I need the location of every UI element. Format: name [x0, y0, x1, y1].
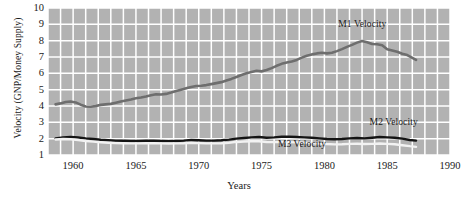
series-label-m1: M1 Velocity: [338, 19, 386, 29]
x-tick-1990: 1990: [420, 160, 476, 172]
chart-figure: Velocity (GNP/Money Supply) 12345678910 …: [0, 0, 476, 203]
y-tick-2: 2: [2, 134, 44, 144]
series-line-1: [56, 137, 417, 141]
y-tick-1: 1: [2, 150, 44, 160]
series-line-0: [56, 41, 417, 107]
x-axis-tick-labels: 1960196519701975198019851990: [0, 160, 476, 174]
x-tick-1985: 1985: [357, 160, 417, 172]
plot-area: M1 VelocityM2 VelocityM3 Velocity: [48, 8, 450, 155]
series-label-m3: M3 Velocity: [278, 139, 326, 149]
x-tick-1975: 1975: [232, 160, 292, 172]
y-tick-3: 3: [2, 117, 44, 127]
x-tick-1980: 1980: [294, 160, 354, 172]
x-axis-title: Years: [0, 180, 476, 191]
y-tick-8: 8: [2, 36, 44, 46]
y-tick-10: 10: [2, 3, 44, 13]
y-tick-9: 9: [2, 19, 44, 29]
y-tick-5: 5: [2, 85, 44, 95]
data-series-lines: [48, 8, 450, 155]
y-tick-7: 7: [2, 52, 44, 62]
x-axis-title-text: Years: [227, 180, 250, 191]
x-tick-1965: 1965: [106, 160, 166, 172]
x-tick-1970: 1970: [169, 160, 229, 172]
series-label-m2: M2 Velocity: [370, 117, 418, 127]
y-tick-4: 4: [2, 101, 44, 111]
y-tick-6: 6: [2, 68, 44, 78]
x-tick-1960: 1960: [43, 160, 103, 172]
